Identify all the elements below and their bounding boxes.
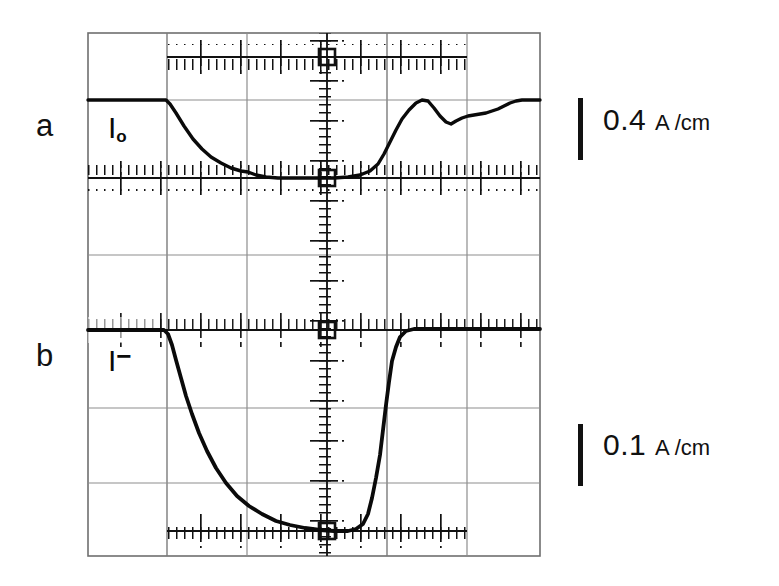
panel-letter-b: b — [36, 340, 53, 371]
trace-label-b: I− — [108, 343, 132, 376]
trace-label-a-subscript: o — [116, 127, 126, 146]
figure-background — [0, 0, 779, 586]
scale-bar-a — [578, 98, 583, 160]
scale-label-b-value: 0.1 — [603, 428, 646, 461]
scale-label-b-unit: A /cm — [655, 435, 710, 460]
trace-label-a: Io — [108, 113, 127, 145]
panel-letter-a: a — [36, 110, 53, 141]
scale-label-a-value: 0.4 — [603, 103, 646, 136]
scale-label-a: 0.4 A /cm — [603, 105, 710, 135]
trace-label-b-superscript: − — [116, 341, 131, 371]
scale-label-a-unit: A /cm — [655, 110, 710, 135]
tick-ruler-vertical-center — [310, 33, 344, 556]
scale-bar-b — [578, 424, 583, 486]
oscilloscope-figure — [0, 0, 779, 586]
scale-label-b: 0.1 A /cm — [603, 430, 710, 460]
